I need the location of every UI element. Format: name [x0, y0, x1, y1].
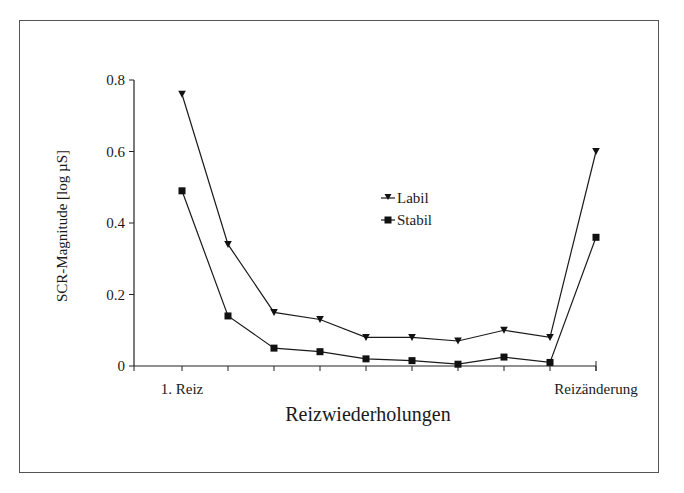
legend-item-labil: Labil [381, 190, 429, 206]
triangle-down-icon [385, 194, 392, 200]
square-marker-icon [501, 354, 508, 361]
triangle-down-marker-icon [178, 91, 186, 98]
square-marker-icon [455, 361, 462, 368]
y-tick-label: 0.6 [106, 144, 125, 160]
square-icon [385, 217, 392, 224]
legend-label-labil: Labil [397, 190, 429, 206]
x-tick-label: 1. Reiz [161, 381, 204, 397]
x-axis-title: Reizwiederholungen [285, 403, 451, 426]
triangle-down-marker-icon [592, 148, 600, 155]
axes: 00.20.40.60.81. ReizReizänderung [106, 72, 638, 397]
y-axis-title: SCR-Magnitude [log µS] [54, 150, 70, 302]
legend: Labil Stabil [381, 190, 432, 228]
square-marker-icon [547, 359, 554, 366]
square-marker-icon [593, 234, 600, 241]
x-tick-label: Reizänderung [554, 381, 638, 397]
legend-label-stabil: Stabil [397, 212, 432, 228]
square-marker-icon [409, 357, 416, 364]
series-layer [178, 91, 600, 368]
y-tick-label: 0.8 [106, 72, 125, 88]
triangle-down-marker-icon [224, 241, 232, 248]
series-stabil [179, 187, 600, 367]
y-tick-label: 0 [118, 358, 126, 374]
legend-item-stabil: Stabil [381, 212, 432, 228]
line-chart: 00.20.40.60.81. ReizReizänderung SCR-Mag… [0, 0, 684, 493]
y-tick-label: 0.4 [106, 215, 125, 231]
square-marker-icon [317, 348, 324, 355]
square-marker-icon [271, 345, 278, 352]
square-marker-icon [225, 312, 232, 319]
y-tick-label: 0.2 [106, 287, 125, 303]
square-marker-icon [179, 187, 186, 194]
square-marker-icon [363, 355, 370, 362]
